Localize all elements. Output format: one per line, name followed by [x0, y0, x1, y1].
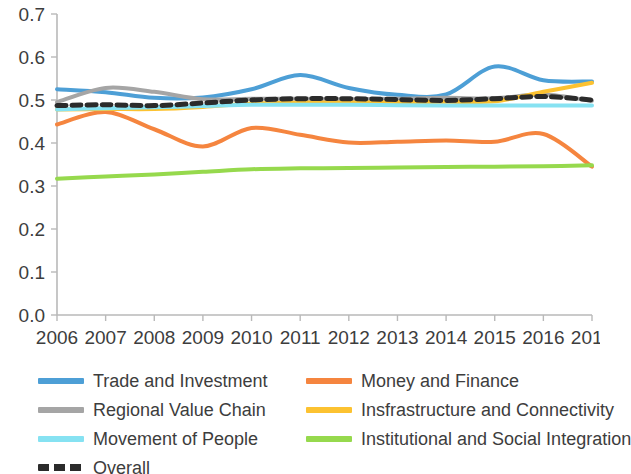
- x-axis-tick-label: 2007: [84, 327, 126, 348]
- legend-column-right: Money and Finance Insfrastructure and Co…: [306, 366, 606, 453]
- legend-swatch-money-and-finance: [306, 378, 352, 384]
- y-axis-tick-label: 0.6: [19, 47, 45, 68]
- legend-swatch-infrastructure-and-connectivity: [306, 407, 352, 413]
- x-axis-tick-label: 2015: [474, 327, 516, 348]
- y-axis-tick-label: 0.2: [19, 219, 45, 240]
- legend-label-overall: Overall: [93, 459, 150, 474]
- x-axis-tick-label: 2010: [230, 327, 272, 348]
- y-axis-tick-label: 0.4: [19, 133, 46, 154]
- legend-label-money-and-finance: Money and Finance: [361, 372, 519, 390]
- y-axis-tick-label: 0.0: [19, 305, 45, 326]
- legend-swatch-trade-and-investment: [38, 378, 84, 384]
- legend-item-money-and-finance[interactable]: Money and Finance: [306, 366, 606, 395]
- y-axis-tick-label: 0.3: [19, 176, 45, 197]
- legend-label-institutional-and-social-integration: Institutional and Social Integration: [361, 430, 631, 448]
- x-axis-tick-label: 2009: [182, 327, 224, 348]
- legend-swatch-institutional-and-social-integration: [306, 436, 352, 442]
- legend-item-trade-and-investment[interactable]: Trade and Investment: [38, 366, 306, 395]
- legend-swatch-overall: [38, 464, 84, 471]
- series-line-money-and-finance: [57, 112, 592, 167]
- legend-label-infrastructure-and-connectivity: Insfrastructure and Connectivity: [361, 401, 614, 419]
- legend-item-infrastructure-and-connectivity[interactable]: Insfrastructure and Connectivity: [306, 395, 606, 424]
- legend-column-left: Trade and Investment Regional Value Chai…: [38, 366, 306, 474]
- x-axis-tick-label: 2017: [571, 327, 600, 348]
- series-line-trade-and-investment: [57, 66, 592, 98]
- legend-label-regional-value-chain: Regional Value Chain: [93, 401, 266, 419]
- legend-swatch-regional-value-chain: [38, 407, 84, 413]
- y-axis-tick-label: 0.5: [19, 90, 45, 111]
- x-axis-tick-label: 2011: [280, 327, 321, 348]
- series-line-institutional-and-social-integration: [57, 165, 592, 178]
- legend-item-overall[interactable]: Overall: [38, 453, 306, 474]
- chart-legend: Trade and Investment Regional Value Chai…: [38, 366, 600, 474]
- plot-area: 0.00.10.20.30.40.50.60.72006200720082009…: [0, 0, 600, 350]
- x-axis-tick-label: 2014: [425, 327, 468, 348]
- y-axis-tick-label: 0.1: [19, 262, 45, 283]
- x-axis-tick-label: 2012: [328, 327, 370, 348]
- x-axis-tick-label: 2016: [522, 327, 564, 348]
- legend-label-movement-of-people: Movement of People: [93, 430, 258, 448]
- x-axis-tick-label: 2006: [36, 327, 78, 348]
- legend-swatch-movement-of-people: [38, 436, 84, 442]
- y-axis-tick-label: 0.7: [19, 4, 45, 25]
- chart-canvas: 0.00.10.20.30.40.50.60.72006200720082009…: [0, 0, 600, 350]
- x-axis-tick-label: 2013: [376, 327, 418, 348]
- legend-label-trade-and-investment: Trade and Investment: [93, 372, 267, 390]
- legend-item-regional-value-chain[interactable]: Regional Value Chain: [38, 395, 306, 424]
- legend-item-movement-of-people[interactable]: Movement of People: [38, 424, 306, 453]
- x-axis-tick-label: 2008: [133, 327, 175, 348]
- legend-item-institutional-and-social-integration[interactable]: Institutional and Social Integration: [306, 424, 606, 453]
